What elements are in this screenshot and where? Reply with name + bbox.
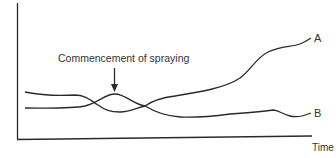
series-a-label: A <box>314 32 322 44</box>
series-a-line <box>25 38 311 108</box>
series-b-line <box>25 92 311 117</box>
x-axis-label: Time <box>312 142 334 153</box>
x-axis <box>17 136 312 140</box>
series-b-label: B <box>314 107 321 119</box>
chart: Commencement of spraying A B Time <box>0 0 336 158</box>
annotation-arrow-head <box>111 84 118 92</box>
annotation-label: Commencement of spraying <box>58 52 189 64</box>
